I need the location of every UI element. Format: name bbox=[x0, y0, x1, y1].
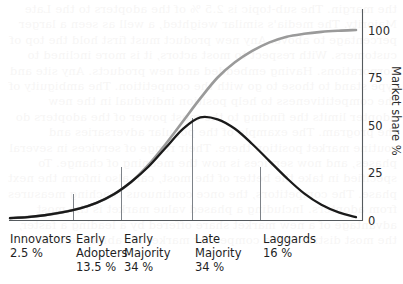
cumulative-s-curve bbox=[10, 30, 356, 218]
diffusion-of-innovation-chart: the margin. The sub-topic is 2.5 % of th… bbox=[0, 0, 403, 284]
segment-label-line1: Early bbox=[124, 232, 153, 246]
y-tick-100: 100 bbox=[368, 24, 390, 38]
segment-label-late-majority: Late Majority 34 % bbox=[195, 232, 242, 274]
segment-label-line3: 34 % bbox=[195, 260, 224, 274]
segment-label-line1: Laggards bbox=[263, 232, 316, 246]
y-tick-0: 0 bbox=[368, 214, 375, 228]
segment-label-line2: Adopters bbox=[76, 246, 128, 260]
segment-label-line2: Majority bbox=[124, 246, 171, 260]
segment-label-line1: Late bbox=[195, 232, 220, 246]
adopter-bell-curve bbox=[10, 117, 356, 218]
y-tick-50: 50 bbox=[368, 119, 383, 133]
segment-label-line1: Innovators bbox=[10, 232, 71, 246]
segment-label-innovators: Innovators 2.5 % bbox=[10, 232, 71, 260]
segment-label-early-adopters: Early Adopters 13.5 % bbox=[76, 232, 128, 274]
chart-plot-area: 100 75 50 25 0 Market share % Innovators… bbox=[0, 0, 403, 284]
segment-label-line2: 2.5 % bbox=[10, 246, 43, 260]
segment-label-line1: Early bbox=[76, 232, 105, 246]
segment-label-line3: 34 % bbox=[124, 260, 153, 274]
segment-label-line2: Majority bbox=[195, 246, 242, 260]
y-axis-title: Market share % bbox=[389, 66, 403, 156]
segment-label-laggards: Laggards 16 % bbox=[263, 232, 316, 260]
y-tick-25: 25 bbox=[368, 166, 383, 180]
segment-label-early-majority: Early Majority 34 % bbox=[124, 232, 171, 274]
y-tick-75: 75 bbox=[368, 71, 383, 85]
segment-label-line3: 13.5 % bbox=[76, 260, 116, 274]
segment-label-line2: 16 % bbox=[263, 246, 292, 260]
